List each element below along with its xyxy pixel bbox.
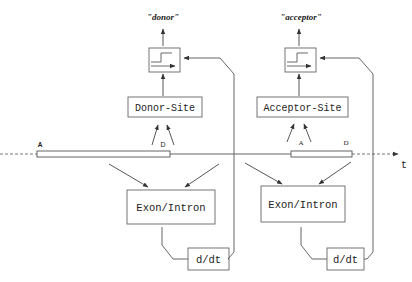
right-window-end-label: D [343,139,348,147]
acceptor-site-box: Acceptor-Site [257,97,348,117]
left-classifier-to-derivative-line [162,227,188,259]
left-exon-intron-label: Exon/Intron [136,202,205,214]
right-sequence-window: A D [291,139,352,157]
axis-label-t: t [401,160,407,171]
right-derivative-box: d/dt [327,248,364,270]
right-feedback-line [320,58,373,259]
left-window-end-label: D [160,141,165,148]
right-exon-intron-box: Exon/Intron [261,186,345,222]
right-classifier-arrow-a [245,163,282,184]
left-window-start-label: A [38,141,43,148]
donor-site-box: Donor-Site [128,97,202,117]
donor-window-arrow-left [152,125,158,145]
donor-site-label: Donor-Site [135,103,195,114]
left-exon-intron-box: Exon/Intron [127,190,215,224]
right-classifier-to-derivative-line [301,227,327,259]
right-window-start-label: A [298,139,303,147]
acceptor-site-label: Acceptor-Site [263,103,341,114]
right-derivative-label: d/dt [333,254,358,266]
left-derivative-box: d/dt [188,248,229,270]
left-sequence-window: A D [37,141,170,157]
left-feedback-line [184,58,234,259]
donor-window-arrow-right [167,125,174,145]
acceptor-window-arrow-left [287,124,294,142]
donor-threshold-box [149,48,180,72]
right-exon-intron-label: Exon/Intron [268,199,337,211]
acceptor-output-label: "acceptor" [280,12,321,22]
left-classifier-arrow-b [185,164,219,187]
left-classifier-arrow-a [109,164,148,187]
acceptor-window-arrow-right [304,124,311,142]
right-classifier-arrow-b [319,162,351,184]
acceptor-threshold-box [285,48,316,72]
splice-site-diagram: "donor" "acceptor" Donor-Site Acceptor-S… [0,0,412,282]
donor-output-label: "donor" [147,12,179,22]
left-derivative-label: d/dt [196,254,221,266]
